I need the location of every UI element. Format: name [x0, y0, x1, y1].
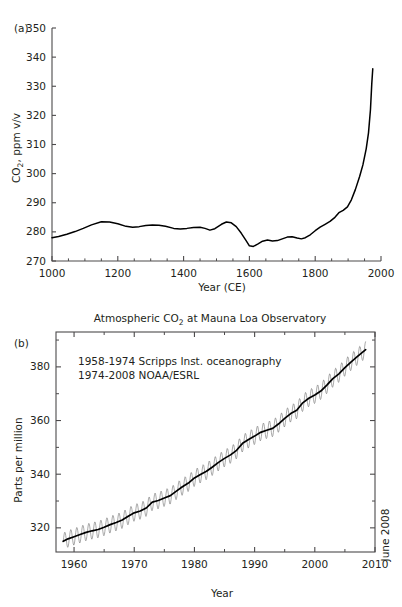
svg-text:320: 320: [26, 109, 46, 121]
svg-text:1980: 1980: [181, 558, 208, 570]
svg-text:1400: 1400: [170, 267, 197, 279]
panel-a-svg: (a) 270280290300310320330340350 10001200…: [0, 0, 402, 300]
co2-figure: (a) 270280290300310320330340350 10001200…: [0, 0, 402, 607]
svg-text:1960: 1960: [61, 558, 88, 570]
panel-b-y-tick-labels: 320340360380: [30, 360, 50, 533]
svg-text:1970: 1970: [121, 558, 148, 570]
svg-text:330: 330: [26, 80, 46, 92]
panel-b-y-axis-title: Parts per million: [12, 417, 24, 502]
svg-text:310: 310: [26, 138, 46, 150]
panel-b-mauna-loa-co2: Atmospheric CO2 at Mauna Loa Observatory…: [0, 300, 402, 607]
panel-b-x-axis-title: Year: [210, 587, 234, 599]
svg-text:320: 320: [30, 521, 50, 533]
panel-a-x-tick-labels: 100012001400160018002000: [39, 267, 395, 279]
svg-text:300: 300: [26, 167, 46, 179]
svg-text:340: 340: [30, 468, 50, 480]
panel-a-y-tick-labels: 270280290300310320330340350: [26, 22, 46, 267]
panel-b-side-note: June 2008: [379, 509, 391, 563]
panel-b-label: (b): [14, 337, 29, 349]
svg-text:290: 290: [26, 196, 46, 208]
svg-text:1958-1974 Scripps Inst. oceano: 1958-1974 Scripps Inst. oceanography: [78, 355, 282, 367]
svg-text:340: 340: [26, 51, 46, 63]
svg-text:1990: 1990: [241, 558, 268, 570]
panel-a-ice-core-series: [52, 69, 373, 247]
svg-text:380: 380: [30, 360, 50, 372]
svg-text:1600: 1600: [236, 267, 263, 279]
svg-text:2000: 2000: [301, 558, 328, 570]
panel-a-millennium-co2: (a) 270280290300310320330340350 10001200…: [0, 0, 402, 300]
panel-b-chart-title: Atmospheric CO2 at Mauna Loa Observatory: [94, 312, 326, 327]
svg-text:1000: 1000: [39, 267, 66, 279]
panel-a-y-axis-title: CO2, ppm v/v: [10, 113, 25, 183]
panel-b-x-tick-labels: 196019701980199020002010: [61, 558, 389, 570]
svg-text:360: 360: [30, 414, 50, 426]
panel-b-source-annotation: 1958-1974 Scripps Inst. oceanography1974…: [78, 355, 282, 381]
svg-text:1200: 1200: [104, 267, 131, 279]
svg-text:1974-2008 NOAA/ESRL: 1974-2008 NOAA/ESRL: [78, 369, 199, 381]
svg-text:1800: 1800: [302, 267, 329, 279]
svg-text:2000: 2000: [368, 267, 395, 279]
svg-text:350: 350: [26, 22, 46, 34]
panel-b-svg: Atmospheric CO2 at Mauna Loa Observatory…: [0, 300, 402, 607]
panel-a-x-axis-title: Year (CE): [197, 281, 246, 293]
svg-text:280: 280: [26, 225, 46, 237]
panel-a-axes: [52, 28, 381, 261]
svg-text:270: 270: [26, 255, 46, 267]
panel-a-ticks: [52, 28, 381, 261]
